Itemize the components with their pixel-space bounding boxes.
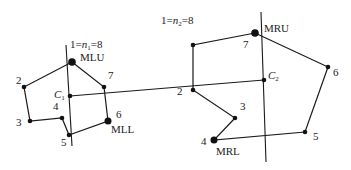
right-point-8	[191, 43, 196, 48]
mru-label: MRU	[264, 22, 289, 34]
right-point-2	[191, 88, 196, 93]
left-point-2	[22, 85, 27, 90]
left-point-7	[102, 85, 107, 90]
c1-label: C1	[54, 88, 65, 102]
left-label-7: 7	[108, 69, 114, 81]
left-polygon-outline	[24, 62, 108, 135]
left-point-3	[28, 119, 33, 124]
right-header-label: 1=n2=8	[161, 14, 194, 28]
right-label-5: 5	[313, 130, 319, 142]
left-point-4	[60, 116, 65, 121]
mrl-point	[211, 137, 218, 144]
right-point-3	[233, 116, 238, 121]
mlu-point	[68, 58, 76, 66]
left-point-5	[67, 133, 72, 138]
right-label-3: 3	[240, 100, 246, 112]
right-point-5	[303, 130, 308, 135]
right-label-6: 6	[333, 66, 339, 78]
mlu-label: MLU	[80, 51, 105, 63]
left-label-3: 3	[16, 116, 22, 128]
left-label-6: 6	[116, 108, 122, 120]
c2-point	[262, 78, 267, 83]
right-label-2: 2	[177, 85, 183, 97]
left-label-2: 2	[16, 74, 22, 86]
mrl-label: MRL	[216, 145, 240, 157]
polygon-diagram: 1=n1=8 MLU 7 6 MLL 5 4 3 2 C1 1=n2=8 MRU…	[0, 0, 351, 170]
right-axis-line	[261, 12, 266, 162]
c1-point	[68, 94, 73, 99]
left-header-label: 1=n1=8	[70, 38, 103, 52]
right-polygon-outline	[193, 33, 328, 140]
left-label-5: 5	[61, 136, 67, 148]
mll-label: MLL	[111, 123, 135, 135]
centroid-connector-line	[70, 80, 264, 96]
right-point-6	[326, 65, 331, 70]
right-label-4: 4	[201, 135, 207, 147]
right-label-7: 7	[243, 38, 249, 50]
c2-label: C2	[268, 69, 279, 83]
left-label-4: 4	[53, 100, 59, 112]
mru-point	[251, 29, 259, 37]
